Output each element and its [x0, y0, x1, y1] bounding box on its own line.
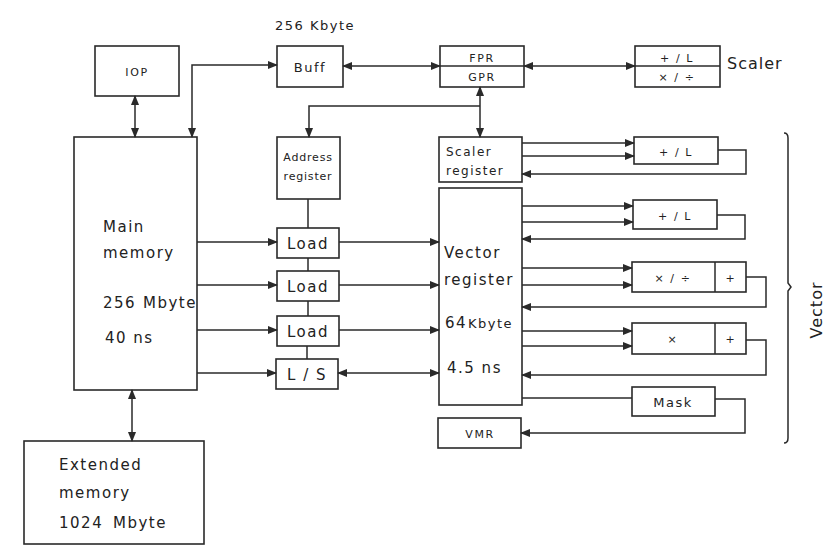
vector-pipe-mul-div-add: × / ÷ + — [632, 262, 746, 292]
load-pipe-2: Load — [277, 271, 339, 301]
svg-text:memory: memory — [103, 244, 175, 262]
buffer-size-caption: 256 Kbyte — [275, 18, 355, 33]
vector-caption: Vector — [807, 282, 826, 339]
svg-text:Main: Main — [103, 218, 145, 236]
vector-pipe-add-logical-1: + / L — [634, 137, 718, 164]
svg-text:Scaler: Scaler — [446, 145, 492, 159]
svg-text:256: 256 — [103, 294, 136, 312]
vector-pipe-mul-add: × + — [632, 323, 746, 354]
load-pipe-3: Load — [277, 316, 339, 346]
vector-processor-block-diagram: 256 Kbyte Scaler Vector IOP Buff FPR GPR… — [0, 0, 835, 559]
svg-text:Mbyte: Mbyte — [113, 514, 167, 532]
svg-text:memory: memory — [59, 484, 131, 502]
svg-text:+: + — [726, 333, 737, 346]
vmr-block: VMR — [438, 418, 521, 448]
extended-memory-block: Extended memory 1024 Mbyte — [24, 441, 204, 544]
svg-text:GPR: GPR — [468, 71, 496, 84]
svg-text:64: 64 — [445, 314, 467, 332]
buffer-block: Buff — [277, 46, 343, 87]
svg-text:Extended: Extended — [59, 456, 142, 474]
svg-text:× / ÷: × / ÷ — [654, 272, 691, 285]
svg-text:×: × — [668, 333, 679, 346]
scaler-unit-block: + / L × / ÷ — [635, 46, 720, 87]
svg-text:register: register — [446, 164, 504, 178]
svg-text:Load: Load — [287, 278, 329, 296]
svg-text:Load: Load — [287, 323, 329, 341]
scaler-caption: Scaler — [727, 54, 783, 73]
vector-register-block: Vector register 64 Kbyte 4.5 ns — [439, 188, 522, 405]
svg-text:Buff: Buff — [294, 60, 326, 75]
mask-block: Mask — [632, 387, 715, 416]
svg-text:Address: Address — [283, 151, 332, 164]
svg-text:+: + — [726, 272, 737, 285]
svg-text:register: register — [444, 271, 514, 289]
svg-text:FPR: FPR — [469, 52, 494, 65]
svg-text:+ / L: + / L — [658, 210, 692, 223]
svg-text:L / S: L / S — [287, 366, 327, 384]
svg-text:× / ÷: × / ÷ — [658, 71, 695, 84]
load-store-pipe: L / S — [276, 359, 338, 389]
address-register-block: Address register — [277, 137, 340, 199]
svg-text:40 ns: 40 ns — [105, 329, 154, 347]
vector-pipe-add-logical-2: + / L — [633, 200, 717, 229]
load-pipe-1: Load — [277, 228, 339, 258]
svg-text:Mbyte: Mbyte — [143, 294, 197, 312]
svg-text:Vector: Vector — [444, 244, 501, 262]
svg-text:1024: 1024 — [59, 514, 103, 532]
svg-text:+ / L: + / L — [659, 146, 693, 159]
svg-text:register: register — [284, 170, 333, 183]
iop-block: IOP — [95, 46, 179, 96]
svg-text:IOP: IOP — [125, 66, 148, 79]
svg-text:VMR: VMR — [465, 428, 494, 441]
svg-text:+ / L: + / L — [660, 52, 694, 65]
svg-text:Load: Load — [287, 235, 329, 253]
svg-text:Kbyte: Kbyte — [468, 316, 513, 331]
main-memory-block: Main memory 256 Mbyte 40 ns — [74, 137, 197, 390]
vector-bracket — [784, 133, 791, 443]
scaler-register-block: Scaler register — [439, 137, 522, 182]
fpr-gpr-block: FPR GPR — [440, 46, 524, 87]
svg-text:Mask: Mask — [653, 395, 692, 410]
svg-text:4.5 ns: 4.5 ns — [447, 359, 502, 377]
